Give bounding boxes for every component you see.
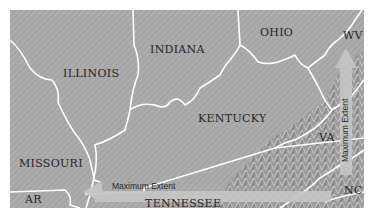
relief-map: ILLINOIS INDIANA OHIO WV KENTUCKY VA MIS… (10, 10, 364, 208)
arrow-horizontal-label: Maximum Extent (112, 182, 175, 191)
label-va: VA (319, 132, 335, 143)
label-nc: NC (344, 185, 363, 196)
label-illinois: ILLINOIS (63, 68, 119, 79)
label-wv: WV (343, 30, 363, 41)
arrow-vertical-label: Maximum Extent (341, 99, 350, 162)
label-tennessee: TENNESSEE (145, 198, 221, 208)
label-ohio: OHIO (260, 27, 293, 38)
map-canvas (10, 10, 364, 208)
label-ar: AR (25, 194, 42, 205)
label-indiana: INDIANA (150, 44, 205, 55)
label-missouri: MISSOURI (19, 158, 83, 169)
label-kentucky: KENTUCKY (198, 113, 266, 124)
